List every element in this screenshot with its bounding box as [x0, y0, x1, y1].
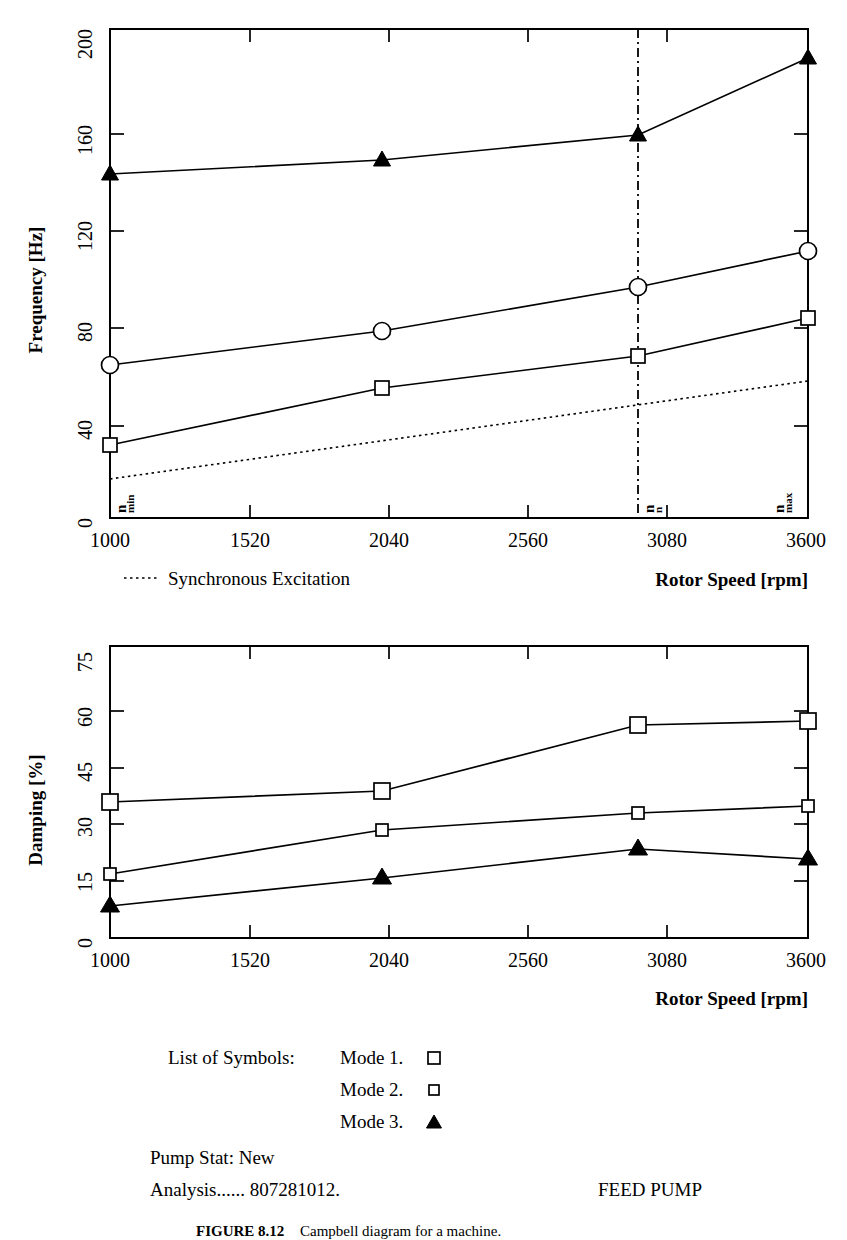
y-tick-label-80: 80 — [74, 322, 96, 342]
machine-label: FEED PUMP — [598, 1179, 702, 1200]
mode1-damping-line — [110, 721, 808, 802]
mode3-damping-marker — [799, 849, 818, 865]
damping-y-tick-label-30: 30 — [74, 817, 96, 837]
mode1-frequency-line — [110, 318, 808, 445]
mode3-frequency-marker — [374, 151, 391, 166]
x-tick-label-3080: 3080 — [647, 529, 687, 551]
mode2-damping-marker — [376, 824, 388, 836]
mode2-frequency-marker — [800, 243, 817, 260]
svg-text:n: n — [652, 507, 664, 513]
n-nominal-annotation: n n — [641, 504, 664, 513]
mode3-frequency-marker — [800, 49, 817, 64]
damping-x-tick-label-1000: 1000 — [90, 949, 130, 971]
mode1-frequency-marker — [375, 381, 389, 395]
figure-number: FIGURE 8.12 — [196, 1223, 284, 1239]
legend-marker-filled-triangle-icon — [427, 1115, 442, 1128]
pump-stat-label: Pump Stat: New — [150, 1147, 275, 1168]
mode1-damping-marker — [102, 794, 118, 810]
damping-x-tick-label-3600: 3600 — [786, 949, 826, 971]
y-tick-label-200: 200 — [74, 29, 96, 59]
mode2-frequency-line — [110, 251, 808, 365]
y-tick-label-160: 160 — [74, 125, 96, 155]
damping-y-axis-title: Damping [%] — [25, 754, 46, 865]
mode3-frequency-marker — [102, 165, 119, 180]
mode1-damping-marker — [630, 717, 646, 733]
mode3-damping-marker — [373, 868, 392, 884]
frequency-y-axis-title: Frequency [Hz] — [25, 227, 46, 354]
mode2-damping-marker — [104, 868, 116, 880]
mode3-damping-marker — [101, 896, 120, 912]
legend-marker-open-square-icon — [428, 1052, 440, 1064]
x-tick-label-2560: 2560 — [508, 529, 548, 551]
legend-item-label-mode-3: Mode 3. — [340, 1111, 403, 1132]
x-tick-label-1000: 1000 — [90, 529, 130, 551]
legend-item-label-mode-2: Mode 2. — [340, 1079, 403, 1100]
damping-plot-frame — [110, 646, 808, 938]
mode3-frequency-marker — [630, 126, 647, 141]
y-tick-label-120: 120 — [74, 221, 96, 251]
analysis-label: Analysis...... 807281012. — [150, 1179, 340, 1200]
x-tick-label-1520: 1520 — [230, 529, 270, 551]
list-of-symbols-title: List of Symbols: — [168, 1047, 295, 1068]
svg-text:min: min — [124, 495, 136, 513]
n-min-annotation: n min — [113, 495, 136, 513]
damping-x-tick-label-2040: 2040 — [369, 949, 409, 971]
mode1-damping-marker — [374, 783, 390, 799]
damping-x-tick-label-1520: 1520 — [230, 949, 270, 971]
synchronous-excitation-line — [110, 381, 808, 479]
x-tick-label-2040: 2040 — [369, 529, 409, 551]
damping-y-tick-label-45: 45 — [74, 762, 96, 782]
symbols-legend-and-footer: List of Symbols: Mode 1. Mode 2. Mode 3.… — [0, 1040, 847, 1240]
mode2-damping-marker — [802, 800, 814, 812]
mode1-frequency-marker — [801, 311, 815, 325]
figure-caption-text: Campbell diagram for a machine. — [300, 1223, 501, 1239]
frequency-chart: Frequency [Hz] 0 40 80 120 160 200 — [0, 0, 847, 600]
campbell-diagram-figure: Frequency [Hz] 0 40 80 120 160 200 — [0, 0, 847, 1240]
damping-x-tick-label-2560: 2560 — [508, 949, 548, 971]
damping-y-tick-label-0: 0 — [74, 938, 96, 948]
mode2-frequency-marker — [374, 323, 391, 340]
svg-text:max: max — [782, 492, 794, 513]
damping-y-tick-label-15: 15 — [74, 872, 96, 892]
damping-x-axis-title: Rotor Speed [rpm] — [655, 988, 808, 1009]
mode1-frequency-marker — [631, 349, 645, 363]
y-tick-label-0: 0 — [74, 518, 96, 528]
damping-x-tick-label-3080: 3080 — [647, 949, 687, 971]
figure-caption: FIGURE 8.12 Campbell diagram for a machi… — [0, 1222, 847, 1240]
y-tick-label-40: 40 — [74, 420, 96, 440]
mode3-damping-marker — [629, 839, 648, 855]
mode2-damping-line — [110, 806, 808, 874]
damping-chart: Damping [%] 0 15 30 45 60 75 — [0, 620, 847, 1040]
n-max-annotation: n max — [771, 492, 794, 513]
damping-y-tick-label-60: 60 — [74, 707, 96, 727]
damping-y-tick-label-75: 75 — [74, 652, 96, 672]
mode1-damping-marker — [800, 713, 816, 729]
legend-marker-small-square-icon — [429, 1085, 439, 1095]
mode2-damping-marker — [632, 807, 644, 819]
mode1-frequency-marker — [103, 438, 117, 452]
legend-item-label-mode-1: Mode 1. — [340, 1047, 403, 1068]
mode2-frequency-marker — [102, 357, 119, 374]
legend-synchronous-excitation-label: Synchronous Excitation — [168, 568, 351, 589]
frequency-x-axis-title: Rotor Speed [rpm] — [655, 569, 808, 590]
mode2-frequency-marker — [630, 279, 647, 296]
mode3-frequency-line — [110, 58, 808, 174]
x-tick-label-3600: 3600 — [786, 529, 826, 551]
